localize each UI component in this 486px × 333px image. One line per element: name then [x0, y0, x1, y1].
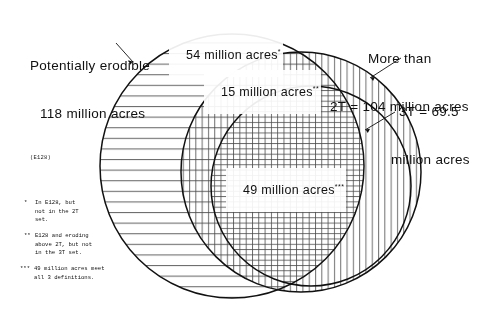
label-e128-title: Potentially erodible 118 million acres (…	[30, 26, 150, 194]
label-e128-code: (E128)	[30, 155, 150, 161]
footnote-2-text: E128 and eroding above 2T, but not in th…	[35, 232, 92, 258]
footnote-1-text: In E128, but not in the 2T set.	[35, 199, 79, 225]
label-2t-line1: More than	[368, 51, 469, 67]
label-3t-title: 3T = 69.5 million acres	[391, 72, 470, 199]
footnotes: * In E128, but not in the 2T set. ** E12…	[24, 199, 134, 282]
footnote-2-marker: **	[24, 232, 35, 258]
region-label-e128-2t-marker: **	[313, 85, 319, 92]
label-3t-line2: million acres	[391, 152, 470, 168]
region-label-e128-2t: 15 million acres**	[204, 70, 321, 114]
region-label-e128-only-marker: *	[278, 48, 281, 55]
label-3t-line1: 3T = 69.5	[399, 104, 470, 120]
footnote-3-text: 49 million acres meet all 3 definitions.	[34, 265, 105, 282]
footnote-3-marker: ***	[20, 265, 34, 282]
label-e128-line1: Potentially erodible	[30, 58, 150, 74]
footnote-1-marker: *	[24, 199, 35, 225]
region-label-all-three: 49 million acres***	[226, 168, 346, 212]
region-label-e128-only-text: 54 million acres	[186, 48, 278, 62]
venn-diagram: Potentially erodible 118 million acres (…	[0, 0, 486, 333]
region-label-all-three-marker: ***	[335, 183, 345, 190]
footnote-3: *** 49 million acres meet all 3 definiti…	[20, 265, 134, 282]
label-e128-line2: 118 million acres	[40, 106, 150, 122]
region-label-e128-2t-text: 15 million acres	[221, 85, 313, 99]
footnote-2: ** E128 and eroding above 2T, but not in…	[24, 232, 134, 258]
footnote-1: * In E128, but not in the 2T set.	[24, 199, 134, 225]
region-label-all-three-text: 49 million acres	[243, 183, 335, 197]
